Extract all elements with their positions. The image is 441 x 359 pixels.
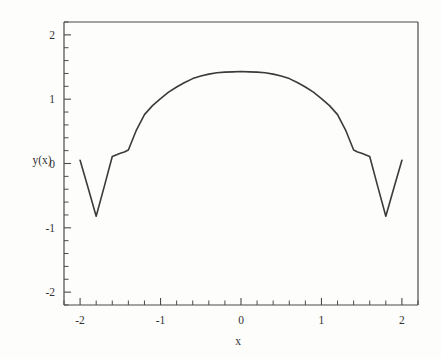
plot-frame <box>64 22 418 305</box>
x-tick-label: -2 <box>75 314 85 326</box>
y-tick-label: 2 <box>49 29 55 41</box>
data-series-line <box>80 72 402 217</box>
y-tick-label: 1 <box>49 93 55 105</box>
y-axis-ticks <box>64 22 71 305</box>
x-tick-label: 0 <box>238 314 244 326</box>
y-axis-label: y(x) <box>32 154 51 167</box>
x-tick-label: 2 <box>399 314 405 326</box>
line-chart: -2-1012 -2-1012 y(x) x <box>0 0 441 359</box>
x-tick-label: 1 <box>319 314 325 326</box>
x-axis-ticks <box>64 298 418 305</box>
plot-figure: -2-1012 -2-1012 y(x) x <box>0 0 441 359</box>
x-axis-label: x <box>235 335 241 347</box>
x-axis-tick-labels: -2-1012 <box>75 314 405 326</box>
x-tick-label: -1 <box>156 314 166 326</box>
y-tick-label: -2 <box>45 286 55 298</box>
y-tick-label: -1 <box>45 222 55 234</box>
